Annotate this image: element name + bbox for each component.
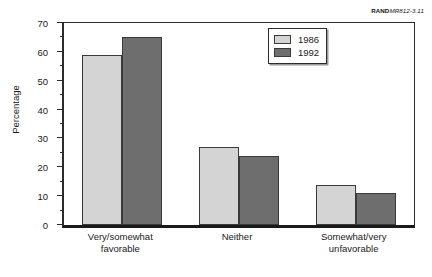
y-axis-tick-minor: [60, 152, 64, 153]
y-axis-tick-minor: [60, 94, 64, 95]
y-axis-tick-major: 10: [57, 195, 64, 196]
bar-1992-group-1: [122, 37, 162, 225]
y-axis-label: Percentage: [10, 65, 21, 155]
x-axis-category-label: Very/somewhat favorable: [60, 231, 180, 254]
x-axis-category-label: Somewhat/very unfavorable: [294, 231, 414, 254]
y-axis-tick-major: 40: [57, 109, 64, 110]
bar-1986-group-1: [82, 55, 122, 225]
y-axis-tick-label: 60: [37, 46, 48, 57]
bar-1992-group-3: [356, 193, 396, 225]
x-axis-category-label: Neither: [177, 231, 297, 243]
y-axis-tick-label: 20: [37, 162, 48, 173]
legend-item: 1992: [274, 46, 319, 59]
y-axis-tick-label: 40: [37, 104, 48, 115]
chart-legend: 1986 1992: [268, 28, 327, 64]
y-axis-tick-minor: [60, 181, 64, 182]
y-axis-tick-minor: [60, 65, 64, 66]
bar-chart: Percentage 010203040506070 1986 1992 Ver…: [0, 0, 432, 277]
y-axis-tick-major: 0: [57, 224, 64, 225]
legend-item: 1986: [274, 33, 319, 46]
plot-area: 010203040506070: [62, 22, 415, 228]
y-axis-tick-major: 20: [57, 166, 64, 167]
legend-swatch-1992: [274, 48, 291, 57]
y-axis-tick-label: 30: [37, 133, 48, 144]
y-axis-tick-label: 50: [37, 75, 48, 86]
bar-1992-group-2: [239, 156, 279, 225]
y-axis-tick-major: 30: [57, 137, 64, 138]
y-axis-tick-minor: [60, 210, 64, 211]
legend-swatch-1986: [274, 35, 291, 44]
y-axis-tick-label: 70: [37, 18, 48, 29]
legend-label-1992: 1992: [298, 47, 319, 58]
y-axis-tick-label: 10: [37, 191, 48, 202]
bar-1986-group-2: [199, 147, 239, 225]
y-axis-tick-major: 50: [57, 80, 64, 81]
y-axis-tick-minor: [60, 36, 64, 37]
legend-label-1986: 1986: [298, 34, 319, 45]
y-axis-tick-label: 0: [43, 220, 48, 231]
y-axis-tick-major: 70: [57, 22, 64, 23]
bar-1986-group-3: [316, 185, 356, 225]
y-axis-tick-major: 60: [57, 51, 64, 52]
y-axis-tick-minor: [60, 123, 64, 124]
